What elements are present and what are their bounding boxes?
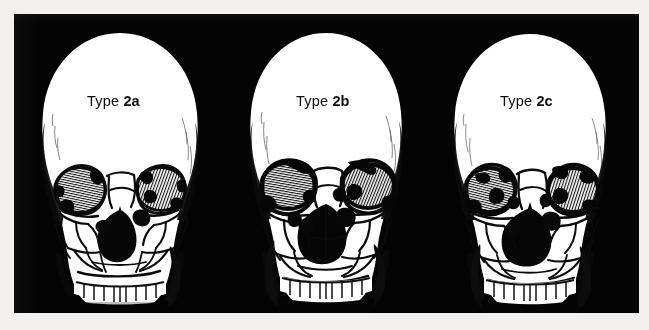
panel-label-code: 2a bbox=[123, 93, 139, 109]
skull-panel-type-2a: Type 2a bbox=[14, 14, 226, 313]
skull-illustration-2a bbox=[14, 14, 226, 313]
panel-label-prefix: Type bbox=[87, 93, 123, 109]
panel-label-type-2c: Type 2c bbox=[500, 94, 553, 109]
photographic-plate: Type 2a bbox=[14, 14, 639, 313]
skull-panel-type-2c: Type 2c bbox=[426, 14, 639, 313]
skull-drawing-2b bbox=[222, 14, 430, 313]
panel-label-type-2a: Type 2a bbox=[87, 94, 140, 109]
skull-drawing-2a bbox=[14, 14, 226, 313]
skull-illustration-2c bbox=[426, 14, 639, 313]
panel-label-code: 2c bbox=[536, 93, 552, 109]
panel-label-prefix: Type bbox=[500, 93, 536, 109]
panel-label-code: 2b bbox=[332, 93, 349, 109]
dental-arch bbox=[482, 278, 578, 313]
figure-plate-container: Type 2a bbox=[0, 0, 649, 330]
skull-panel-type-2b: Type 2b bbox=[222, 14, 430, 313]
skull-illustration-2b bbox=[222, 14, 430, 313]
skull-drawing-2c bbox=[426, 14, 639, 313]
panel-label-prefix: Type bbox=[296, 93, 332, 109]
panel-label-type-2b: Type 2b bbox=[296, 94, 349, 109]
